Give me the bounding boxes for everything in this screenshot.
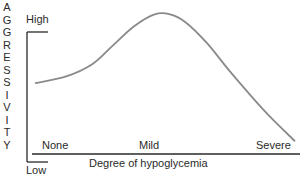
chart-canvas <box>0 0 307 182</box>
aggressivity-curve <box>35 13 295 141</box>
